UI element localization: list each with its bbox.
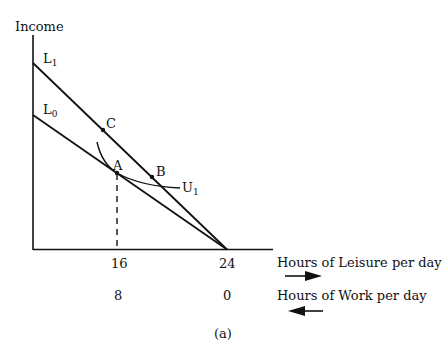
arrow-left-icon [288,306,323,316]
tick-work-8: 8 [114,289,122,302]
diagram-canvas [0,0,443,359]
point-b [150,175,154,179]
budget-line-l1 [33,63,227,250]
point-c [101,128,105,132]
figure-caption: (a) [214,327,232,340]
label-l0: L0 [43,103,57,116]
label-u1-sub: 1 [193,187,199,197]
label-point-c: C [106,117,116,130]
label-l0-main: L [43,102,52,117]
labor-leisure-diagram: Income L1 L0 C A B U1 16 24 8 0 Hours of… [0,0,443,359]
label-u1: U1 [182,181,199,194]
arrow-right-icon [285,271,322,281]
tick-work-0: 0 [223,289,231,302]
label-u1-main: U [182,180,193,195]
label-l1-sub: 1 [52,58,58,68]
x-axis-label-leisure: Hours of Leisure per day [277,256,442,269]
label-point-a: A [113,159,122,172]
label-l1: L1 [43,52,57,65]
x-axis-label-work: Hours of Work per day [277,289,427,302]
label-l1-main: L [43,51,52,66]
label-point-b: B [156,165,166,178]
label-l0-sub: 0 [52,109,58,119]
y-axis-label: Income [15,20,64,33]
tick-leisure-16: 16 [111,257,128,270]
tick-leisure-24: 24 [219,257,236,270]
